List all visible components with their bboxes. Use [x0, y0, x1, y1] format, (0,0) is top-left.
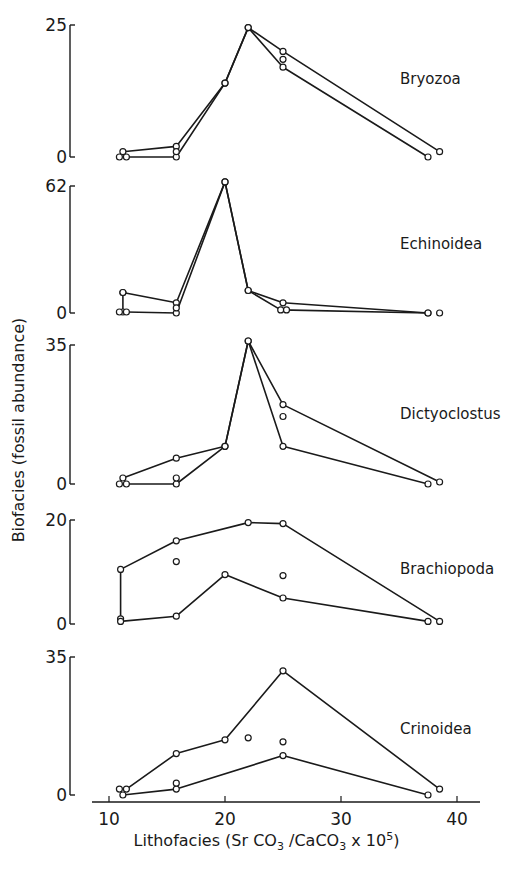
data-point-marker: [173, 305, 179, 311]
panel-label: Brachiopoda: [400, 560, 494, 578]
data-point-marker: [173, 780, 179, 786]
data-point-marker: [280, 573, 286, 579]
y-tick-label: 25: [45, 15, 67, 35]
data-point-marker: [245, 735, 251, 741]
data-point-marker: [173, 613, 179, 619]
y-axis-label-wrap: Biofacies (fossil abundance): [3, 250, 33, 610]
data-point-marker: [437, 149, 443, 155]
data-point-marker: [437, 310, 443, 316]
y-tick-label: 0: [56, 474, 67, 494]
data-point-marker: [222, 737, 228, 743]
chart-canvas: 250Bryozoa620Echinoidea350Dictyoclostus2…: [0, 0, 513, 871]
panel-label: Crinoidea: [400, 720, 472, 738]
data-point-marker: [116, 786, 122, 792]
series-line: [126, 182, 428, 313]
x-tick-label: 10: [98, 809, 120, 829]
data-point-marker: [278, 307, 284, 313]
y-tick-label: 35: [45, 647, 67, 667]
data-point-marker: [437, 786, 443, 792]
data-point-marker: [222, 443, 228, 449]
data-point-marker: [173, 538, 179, 544]
data-point-marker: [118, 618, 124, 624]
data-point-marker: [425, 154, 431, 160]
panel-echinoidea: 620Echinoidea: [45, 176, 482, 323]
data-point-marker: [116, 309, 122, 315]
data-point-marker: [437, 479, 443, 485]
data-point-marker: [222, 179, 228, 185]
y-axis-label: Biofacies (fossil abundance): [9, 318, 28, 543]
panel-dictyoclostus: 350Dictyoclostus: [45, 335, 500, 494]
x-axis-label-text: Lithofacies (Sr CO: [134, 831, 277, 850]
y-tick-label: 0: [56, 303, 67, 323]
data-point-marker: [280, 48, 286, 54]
data-point-marker: [280, 595, 286, 601]
chart-panels: 250Bryozoa620Echinoidea350Dictyoclostus2…: [45, 15, 500, 805]
x-axis: 10203040: [92, 796, 480, 829]
x-axis-label-text: ): [393, 831, 399, 850]
series-line: [121, 575, 428, 622]
panel-label: Bryozoa: [400, 70, 461, 88]
data-point-marker: [280, 739, 286, 745]
panel-label: Dictyoclostus: [400, 405, 501, 423]
series-line: [126, 341, 428, 484]
x-tick-label: 20: [214, 809, 236, 829]
data-point-marker: [120, 792, 126, 798]
data-point-marker: [284, 307, 290, 313]
series-line: [121, 523, 440, 622]
data-point-marker: [245, 25, 251, 31]
y-tick-label: 0: [56, 614, 67, 634]
data-point-marker: [123, 786, 129, 792]
x-axis-label: Lithofacies (Sr CO3 /CaCO3 x 105): [0, 830, 513, 853]
x-tick-label: 30: [330, 809, 352, 829]
data-point-marker: [123, 481, 129, 487]
data-point-marker: [245, 520, 251, 526]
data-point-marker: [425, 310, 431, 316]
y-tick-label: 62: [45, 176, 67, 196]
series-line: [123, 341, 440, 482]
data-point-marker: [116, 481, 122, 487]
data-point-marker: [280, 443, 286, 449]
data-point-marker: [280, 300, 286, 306]
x-axis-label-text: /CaCO: [284, 831, 339, 850]
x-axis-label-text: x 10: [346, 831, 386, 850]
data-point-marker: [280, 668, 286, 674]
data-point-marker: [425, 481, 431, 487]
data-point-marker: [222, 80, 228, 86]
data-point-marker: [123, 154, 129, 160]
data-point-marker: [118, 566, 124, 572]
y-tick-label: 0: [56, 147, 67, 167]
series-line: [123, 756, 428, 795]
panel-crinoidea: 350Crinoidea: [45, 647, 471, 805]
data-point-marker: [425, 618, 431, 624]
data-point-marker: [280, 64, 286, 70]
panel-label: Echinoidea: [400, 235, 482, 253]
data-point-marker: [123, 309, 129, 315]
data-point-marker: [173, 149, 179, 155]
data-point-marker: [437, 618, 443, 624]
data-point-marker: [173, 559, 179, 565]
panel-bryozoa: 250Bryozoa: [45, 15, 460, 167]
series-line: [123, 182, 428, 313]
data-point-marker: [280, 414, 286, 420]
series-line: [123, 28, 440, 152]
data-point-marker: [280, 402, 286, 408]
y-tick-label: 0: [56, 785, 67, 805]
data-point-marker: [173, 481, 179, 487]
data-point-marker: [280, 56, 286, 62]
x-tick-label: 40: [446, 809, 468, 829]
data-point-marker: [173, 475, 179, 481]
data-point-marker: [222, 572, 228, 578]
panel-brachiopoda: 200Brachiopoda: [45, 510, 494, 634]
data-point-marker: [120, 290, 126, 296]
data-point-marker: [120, 475, 126, 481]
data-point-marker: [245, 288, 251, 294]
y-tick-label: 35: [45, 335, 67, 355]
series-line: [126, 671, 439, 789]
data-point-marker: [173, 786, 179, 792]
x-axis-label-sub: 3: [277, 840, 284, 853]
data-point-marker: [173, 455, 179, 461]
data-point-marker: [173, 751, 179, 757]
data-point-marker: [116, 154, 122, 160]
data-point-marker: [245, 338, 251, 344]
data-point-marker: [280, 753, 286, 759]
